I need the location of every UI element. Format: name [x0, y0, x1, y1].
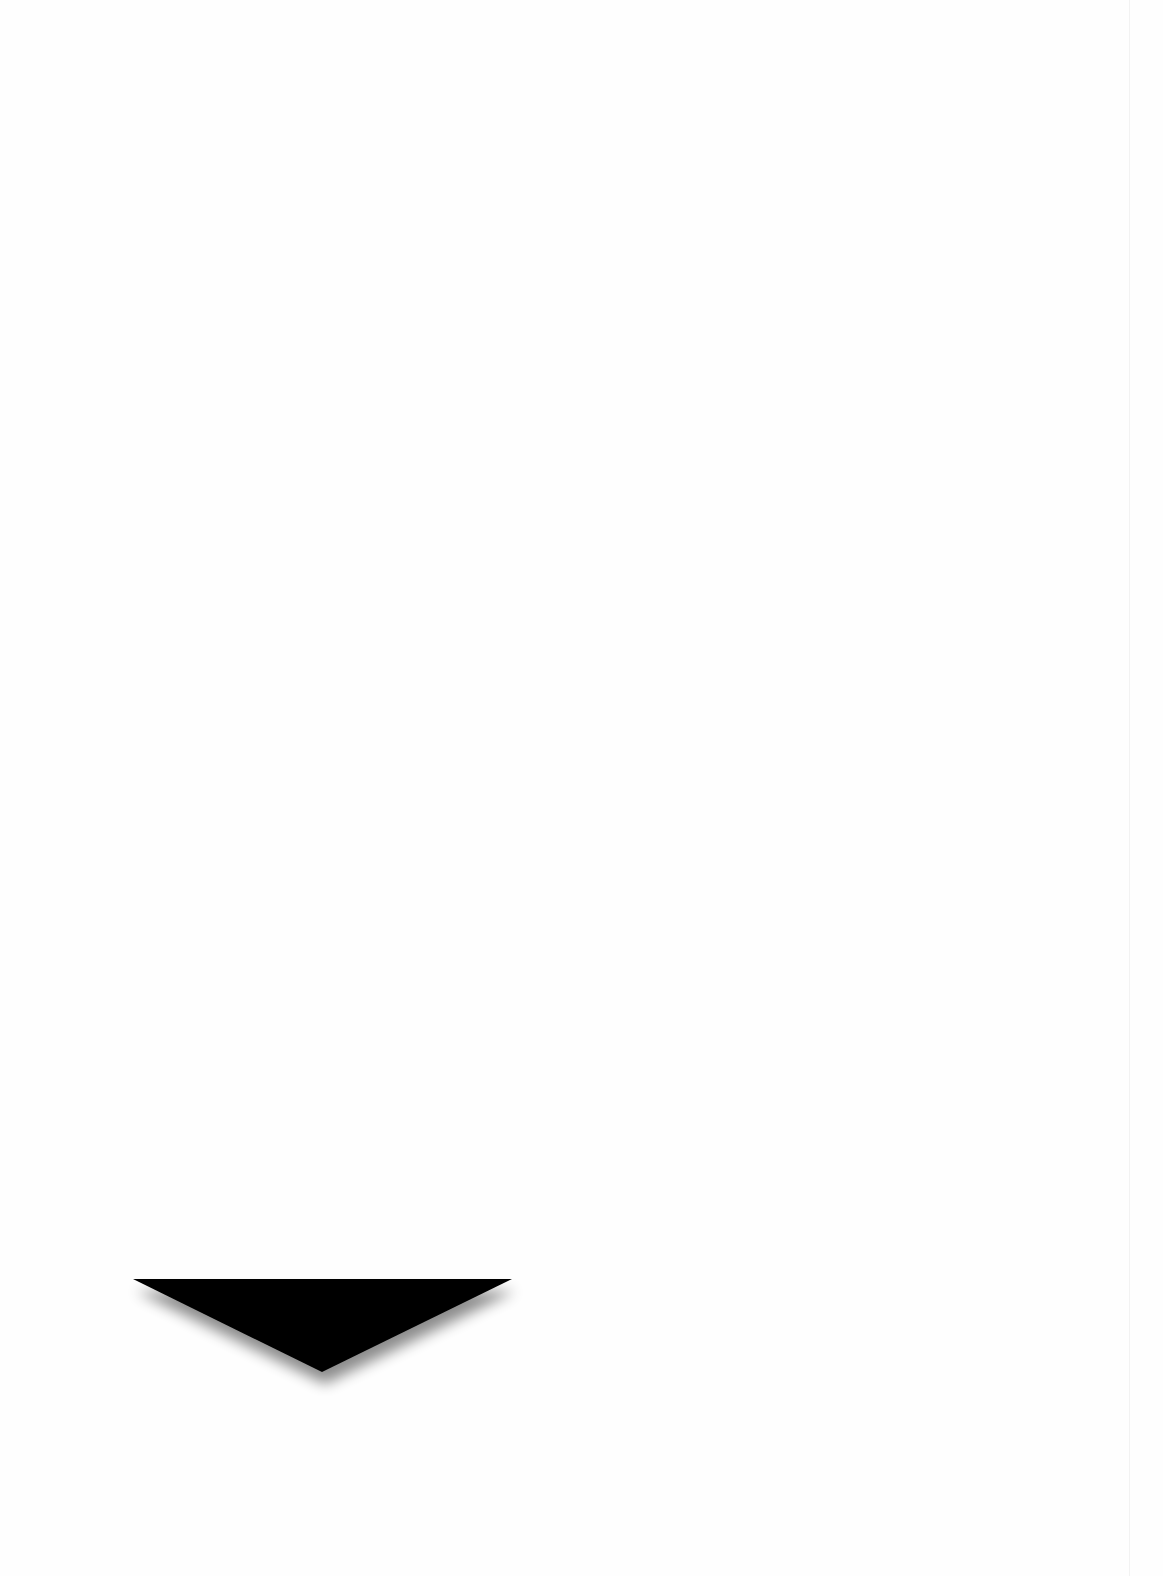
down-triangle-icon	[128, 1270, 528, 1410]
down-arrow	[128, 1270, 528, 1410]
blank-page	[0, 0, 1163, 1576]
page-edge-line	[1129, 0, 1130, 1576]
